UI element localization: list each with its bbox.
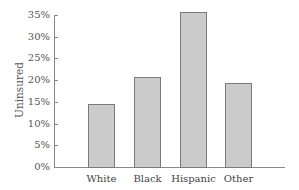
y-tick (54, 58, 58, 59)
bar-hispanic (180, 12, 207, 168)
y-tick-label: 0% (10, 162, 50, 172)
y-tick (54, 167, 58, 168)
y-tick-label: 20% (10, 75, 50, 85)
y-tick (54, 102, 58, 103)
bar-white (88, 104, 115, 168)
y-tick-label: 35% (10, 10, 50, 20)
y-tick-label: 25% (10, 53, 50, 63)
y-tick (54, 15, 58, 16)
y-tick-label: 30% (10, 32, 50, 42)
bar-black (134, 77, 161, 168)
bar-chart: Uninsured 0%5%10%15%20%25%30%35% WhiteBl… (0, 0, 299, 190)
bar-other (225, 83, 252, 168)
y-tick (54, 80, 58, 81)
x-tick-label: Other (209, 173, 269, 185)
y-tick-label: 5% (10, 140, 50, 150)
y-tick-label: 10% (10, 119, 50, 129)
y-tick-label: 15% (10, 97, 50, 107)
y-tick (54, 145, 58, 146)
y-tick (54, 37, 58, 38)
y-tick (54, 124, 58, 125)
